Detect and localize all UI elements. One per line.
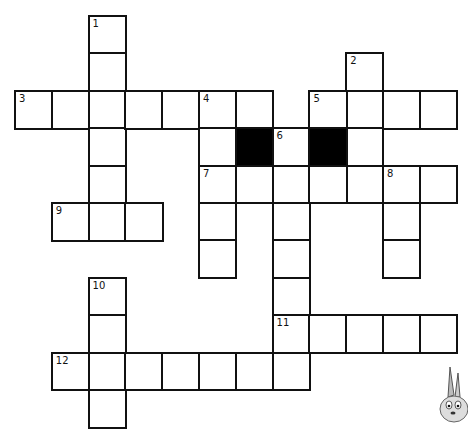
crossword-cell[interactable] xyxy=(272,277,311,317)
crossword-cell[interactable]: 12 xyxy=(51,352,90,392)
crossword-cell[interactable] xyxy=(198,127,237,167)
clue-number: 1 xyxy=(93,18,99,30)
crossword-cell[interactable] xyxy=(198,239,237,279)
crossword-cell[interactable] xyxy=(88,165,127,205)
crossword-cell[interactable] xyxy=(51,90,90,130)
crossword-cell[interactable] xyxy=(382,314,421,354)
crossword-cell[interactable] xyxy=(88,389,127,429)
crossword-cell[interactable] xyxy=(308,165,347,205)
crossword-cell[interactable]: 11 xyxy=(272,314,311,354)
crossword-cell[interactable]: 2 xyxy=(345,52,384,92)
crossword-cell[interactable]: 9 xyxy=(51,202,90,242)
crossword-cell[interactable] xyxy=(272,202,311,242)
crossword-cell[interactable] xyxy=(272,352,311,392)
crossword-cell[interactable] xyxy=(124,202,163,242)
crossword-cell[interactable]: 5 xyxy=(308,90,347,130)
crossword-cell[interactable]: 4 xyxy=(198,90,237,130)
crossword-cell[interactable] xyxy=(124,90,163,130)
crossword-cell[interactable] xyxy=(308,314,347,354)
crossword-cell[interactable] xyxy=(382,90,421,130)
clue-number: 2 xyxy=(350,55,356,67)
crossword-cell[interactable] xyxy=(88,90,127,130)
crossword-cell[interactable]: 8 xyxy=(382,165,421,205)
crossword-cell[interactable] xyxy=(419,90,458,130)
crossword-cell[interactable] xyxy=(345,165,384,205)
crossword-cell[interactable] xyxy=(88,314,127,354)
crossword-cell[interactable]: 7 xyxy=(198,165,237,205)
clue-number: 12 xyxy=(56,355,69,367)
crossword-cell[interactable] xyxy=(382,202,421,242)
clue-number: 7 xyxy=(203,168,209,180)
crossword-cell[interactable] xyxy=(88,52,127,92)
crossword-cell[interactable]: 6 xyxy=(272,127,311,167)
crossword-cell[interactable] xyxy=(272,239,311,279)
crossword-cell[interactable] xyxy=(419,165,458,205)
crossword-cell[interactable] xyxy=(382,239,421,279)
clue-number: 10 xyxy=(93,280,106,292)
crossword-cell[interactable] xyxy=(345,90,384,130)
crossword-cell[interactable] xyxy=(345,127,384,167)
clue-number: 3 xyxy=(19,93,25,105)
crossword-cell[interactable] xyxy=(161,90,200,130)
crossword-cell[interactable] xyxy=(235,90,274,130)
clue-number: 5 xyxy=(313,93,319,105)
clue-number: 11 xyxy=(277,317,290,329)
crossword-cell[interactable] xyxy=(88,352,127,392)
crossword-cell[interactable] xyxy=(235,165,274,205)
crossword-cell[interactable] xyxy=(419,314,458,354)
crossword-cell[interactable] xyxy=(272,165,311,205)
crossword-cell[interactable]: 10 xyxy=(88,277,127,317)
black-cell xyxy=(235,127,274,167)
clue-number: 6 xyxy=(277,130,283,142)
black-cell xyxy=(308,127,347,167)
clue-number: 4 xyxy=(203,93,209,105)
crossword-cell[interactable] xyxy=(88,202,127,242)
crossword-cell[interactable]: 3 xyxy=(14,90,53,130)
crossword-cell[interactable] xyxy=(161,352,200,392)
crossword-cell[interactable] xyxy=(198,202,237,242)
clue-number: 9 xyxy=(56,205,62,217)
bunny-illustration-icon xyxy=(428,365,468,423)
crossword-cell[interactable]: 1 xyxy=(88,15,127,55)
crossword-cell[interactable] xyxy=(88,127,127,167)
crossword-cell[interactable] xyxy=(345,314,384,354)
crossword-cell[interactable] xyxy=(124,352,163,392)
clue-number: 8 xyxy=(387,168,393,180)
crossword-cell[interactable] xyxy=(198,352,237,392)
crossword-cell[interactable] xyxy=(235,352,274,392)
